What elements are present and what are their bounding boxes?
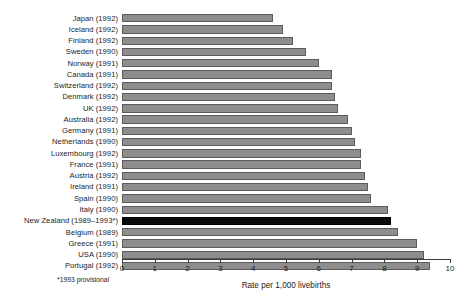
- x-tick: [220, 259, 221, 263]
- x-tick-label: 10: [438, 264, 462, 273]
- bar: [122, 239, 417, 247]
- chart-row: Finland (1992): [0, 36, 475, 47]
- x-tick-label: 6: [307, 264, 331, 273]
- bar: [122, 183, 368, 191]
- category-label: Spain (1990): [0, 193, 118, 204]
- x-tick: [319, 259, 320, 263]
- x-tick: [122, 259, 123, 263]
- chart-row: Denmark (1992): [0, 92, 475, 103]
- x-tick: [155, 259, 156, 263]
- bar: [122, 48, 306, 56]
- bar: [122, 25, 283, 33]
- chart-row: Switzerland (1992): [0, 81, 475, 92]
- bar: [122, 93, 335, 101]
- bar: [122, 115, 348, 123]
- bar: [122, 217, 391, 225]
- x-tick: [253, 259, 254, 263]
- category-label: Ireland (1991): [0, 181, 118, 192]
- x-tick-label: 1: [143, 264, 167, 273]
- x-axis-title: Rate per 1,000 livebirths: [122, 281, 450, 290]
- category-label: USA (1990): [0, 249, 118, 260]
- category-label: Canada (1991): [0, 69, 118, 80]
- x-tick: [384, 259, 385, 263]
- bar-chart: Japan (1992)Iceland (1992)Finland (1992)…: [0, 0, 475, 301]
- bar: [122, 59, 319, 67]
- category-label: Sweden (1990): [0, 46, 118, 57]
- category-label: New Zealand (1989–1993*): [0, 215, 118, 226]
- bar: [122, 206, 388, 214]
- category-label: Greece (1991): [0, 238, 118, 249]
- chart-row: Germany (1991): [0, 126, 475, 137]
- x-tick: [286, 259, 287, 263]
- chart-row: Austria (1992): [0, 171, 475, 182]
- x-tick: [450, 259, 451, 263]
- chart-row: Greece (1991): [0, 238, 475, 249]
- chart-footnote: *1993 provisional: [57, 276, 109, 283]
- category-label: Portugal (1992): [0, 260, 118, 271]
- bar: [122, 194, 371, 202]
- category-label: Finland (1992): [0, 35, 118, 46]
- bar: [122, 149, 361, 157]
- bar: [122, 104, 338, 112]
- chart-row: Belgium (1989): [0, 227, 475, 238]
- category-label: Denmark (1992): [0, 91, 118, 102]
- category-label: Luxembourg (1992): [0, 148, 118, 159]
- category-label: Austria (1992): [0, 170, 118, 181]
- category-label: Australia (1992): [0, 114, 118, 125]
- chart-row: Iceland (1992): [0, 24, 475, 35]
- bar: [122, 172, 365, 180]
- chart-row: Sweden (1990): [0, 47, 475, 58]
- chart-row: Australia (1992): [0, 114, 475, 125]
- chart-row: France (1991): [0, 159, 475, 170]
- category-label: Netherlands (1990): [0, 136, 118, 147]
- category-label: Italy (1990): [0, 204, 118, 215]
- bar: [122, 14, 273, 22]
- x-tick-label: 7: [340, 264, 364, 273]
- x-tick: [188, 259, 189, 263]
- bar: [122, 70, 332, 78]
- bar: [122, 82, 332, 90]
- category-label: UK (1992): [0, 103, 118, 114]
- category-label: France (1991): [0, 159, 118, 170]
- x-tick: [417, 259, 418, 263]
- bar: [122, 37, 293, 45]
- chart-row: Ireland (1991): [0, 182, 475, 193]
- chart-row: Italy (1990): [0, 205, 475, 216]
- chart-row: Luxembourg (1992): [0, 148, 475, 159]
- bar: [122, 160, 361, 168]
- chart-row: Japan (1992): [0, 13, 475, 24]
- chart-row: Netherlands (1990): [0, 137, 475, 148]
- category-label: Switzerland (1992): [0, 80, 118, 91]
- category-label: Norway (1991): [0, 58, 118, 69]
- x-tick-label: 3: [208, 264, 232, 273]
- bar: [122, 127, 352, 135]
- chart-row: Norway (1991): [0, 58, 475, 69]
- x-tick-label: 2: [176, 264, 200, 273]
- chart-row: New Zealand (1989–1993*): [0, 216, 475, 227]
- chart-row: Portugal (1992): [0, 261, 475, 272]
- x-tick-label: 9: [405, 264, 429, 273]
- x-tick-label: 8: [372, 264, 396, 273]
- x-tick-label: 5: [274, 264, 298, 273]
- chart-row: Canada (1991): [0, 69, 475, 80]
- category-label: Belgium (1989): [0, 227, 118, 238]
- category-label: Germany (1991): [0, 125, 118, 136]
- chart-rows: Japan (1992)Iceland (1992)Finland (1992)…: [0, 13, 475, 272]
- category-label: Iceland (1992): [0, 24, 118, 35]
- bar: [122, 228, 398, 236]
- chart-row: Spain (1990): [0, 193, 475, 204]
- x-tick: [352, 259, 353, 263]
- bar: [122, 138, 355, 146]
- category-label: Japan (1992): [0, 13, 118, 24]
- chart-row: UK (1992): [0, 103, 475, 114]
- x-tick-label: 4: [241, 264, 265, 273]
- x-tick-label: 0: [110, 264, 134, 273]
